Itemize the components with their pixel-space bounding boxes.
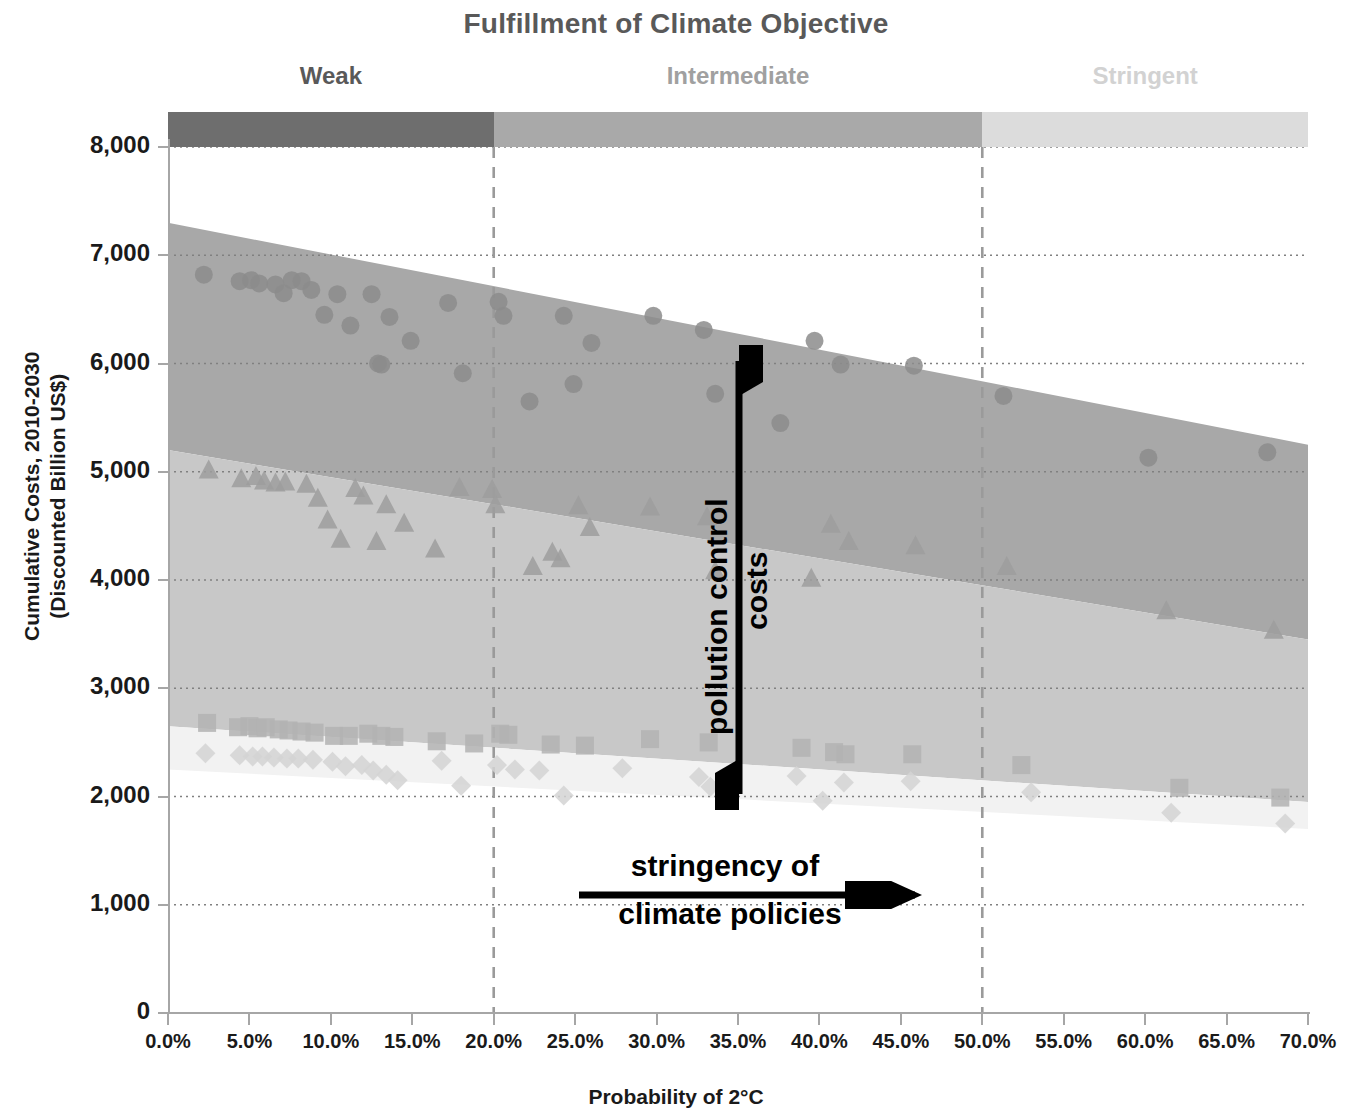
data-point-circle	[565, 375, 583, 393]
data-point-circle	[1139, 449, 1157, 467]
category-labels: WeakIntermediateStringent	[0, 62, 1352, 98]
chart-title: Fulfillment of Climate Objective	[0, 8, 1352, 40]
data-point-circle	[905, 357, 923, 375]
data-point-circle	[380, 308, 398, 326]
x-axis-line	[168, 1012, 1310, 1014]
data-point-circle	[771, 414, 789, 432]
x-axis-tick	[737, 1014, 739, 1025]
data-point-circle	[494, 307, 512, 325]
y-axis-title-line2: (Discounted Billion US$)	[46, 374, 69, 619]
data-point-circle	[315, 306, 333, 324]
stringency-label-line1: stringency of	[565, 850, 885, 882]
data-point-circle	[994, 387, 1012, 405]
data-point-circle	[582, 334, 600, 352]
category-label-stringent: Stringent	[982, 62, 1308, 90]
x-axis-tick	[167, 1014, 169, 1025]
x-axis-tick	[1226, 1014, 1228, 1025]
category-label-intermediate: Intermediate	[494, 62, 983, 90]
data-point-square	[1271, 789, 1289, 807]
data-point-square	[641, 730, 659, 748]
x-axis-tick	[818, 1014, 820, 1025]
x-axis-tick	[330, 1014, 332, 1025]
y-axis-tick-label: 1,000	[10, 889, 150, 917]
category-bar-intermediate	[494, 112, 983, 147]
data-point-circle	[363, 285, 381, 303]
y-axis-line	[168, 139, 170, 1014]
category-bar-weak	[168, 112, 494, 147]
data-point-square	[499, 726, 517, 744]
data-point-square	[903, 745, 921, 763]
data-point-circle	[439, 294, 457, 312]
data-point-circle	[1258, 443, 1276, 461]
data-point-circle	[806, 332, 824, 350]
category-label-weak: Weak	[168, 62, 494, 90]
x-axis-tick	[411, 1014, 413, 1025]
data-point-circle	[250, 274, 268, 292]
x-axis-tick	[574, 1014, 576, 1025]
data-point-square	[385, 728, 403, 746]
data-point-circle	[454, 364, 472, 382]
data-point-square	[542, 736, 560, 754]
data-point-circle	[372, 356, 390, 374]
x-axis-tick	[248, 1014, 250, 1025]
y-axis-title-line1: Cumulative Costs, 2010-2030	[20, 352, 43, 641]
data-point-square	[1012, 756, 1030, 774]
y-axis-tick-label: 2,000	[10, 781, 150, 809]
data-point-circle	[402, 332, 420, 350]
category-bar-stringent	[982, 112, 1308, 147]
x-axis-tick-label: 70.0%	[1248, 1030, 1352, 1053]
data-point-square	[576, 737, 594, 755]
data-point-square	[340, 727, 358, 745]
stringency-label-line2: climate policies	[540, 898, 920, 930]
pollution-control-label-line1: pollution control	[700, 498, 734, 735]
data-point-circle	[328, 285, 346, 303]
x-axis-tick	[981, 1014, 983, 1025]
x-axis-tick	[900, 1014, 902, 1025]
data-point-square	[465, 734, 483, 752]
x-axis-tick	[493, 1014, 495, 1025]
x-axis-tick	[1144, 1014, 1146, 1025]
data-point-circle	[644, 307, 662, 325]
y-axis-tick-label: 8,000	[10, 131, 150, 159]
x-axis-tick	[1063, 1014, 1065, 1025]
data-point-circle	[302, 281, 320, 299]
x-axis-tick	[656, 1014, 658, 1025]
data-point-circle	[832, 356, 850, 374]
data-point-circle	[695, 321, 713, 339]
data-point-square	[198, 714, 216, 732]
x-axis-title: Probability of 2°C	[0, 1085, 1352, 1109]
y-axis-tick-label: 0	[10, 997, 150, 1025]
data-point-square	[836, 745, 854, 763]
pollution-control-label-line2: costs	[740, 552, 774, 630]
data-point-square	[428, 732, 446, 750]
y-axis-title: Cumulative Costs, 2010-2030 (Discounted …	[19, 236, 72, 756]
data-point-circle	[195, 266, 213, 284]
data-point-circle	[555, 307, 573, 325]
data-point-square	[793, 739, 811, 757]
data-point-square	[1170, 779, 1188, 797]
x-axis-tick	[1307, 1014, 1309, 1025]
data-point-circle	[521, 392, 539, 410]
data-point-square	[306, 724, 324, 742]
data-point-circle	[341, 317, 359, 335]
